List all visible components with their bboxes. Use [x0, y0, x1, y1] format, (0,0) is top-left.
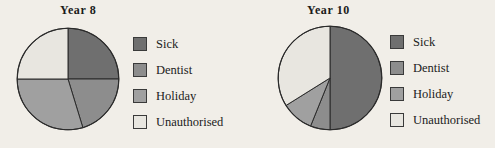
chart-title-year-10: Year 10: [307, 3, 350, 18]
pie-chart-year-8: [16, 27, 120, 131]
legend-label-dentist: Dentist: [413, 62, 449, 75]
legend-item-holiday[interactable]: Holiday: [390, 81, 480, 107]
legend-item-unauthorised[interactable]: Unauthorised: [390, 107, 480, 133]
legend-swatch-holiday: [390, 87, 404, 101]
pie-slice-sick: [68, 28, 119, 79]
pie-chart-year-10: [277, 25, 383, 131]
legend-item-holiday[interactable]: Holiday: [133, 83, 223, 109]
pie-svg-year-10: [277, 25, 383, 131]
figure-canvas: Year 8 Sick Dentist Holiday Unauthorised…: [0, 0, 495, 148]
legend-year-8: Sick Dentist Holiday Unauthorised: [133, 31, 223, 135]
legend-item-dentist[interactable]: Dentist: [133, 57, 223, 83]
pie-slice-unauthorised: [17, 28, 68, 79]
legend-item-dentist[interactable]: Dentist: [390, 55, 480, 81]
legend-swatch-dentist: [390, 61, 404, 75]
legend-item-sick[interactable]: Sick: [133, 31, 223, 57]
legend-year-10: Sick Dentist Holiday Unauthorised: [390, 29, 480, 133]
legend-label-holiday: Holiday: [413, 88, 453, 101]
legend-label-sick: Sick: [413, 36, 435, 49]
legend-label-sick: Sick: [156, 38, 178, 51]
legend-item-sick[interactable]: Sick: [390, 29, 480, 55]
legend-label-dentist: Dentist: [156, 64, 192, 77]
legend-swatch-unauthorised: [390, 113, 404, 127]
pie-slice-sick: [330, 26, 382, 130]
legend-label-holiday: Holiday: [156, 90, 196, 103]
legend-swatch-holiday: [133, 89, 147, 103]
pie-svg-year-8: [16, 27, 120, 131]
legend-item-unauthorised[interactable]: Unauthorised: [133, 109, 223, 135]
legend-label-unauthorised: Unauthorised: [156, 116, 223, 129]
legend-label-unauthorised: Unauthorised: [413, 114, 480, 127]
legend-swatch-dentist: [133, 63, 147, 77]
legend-swatch-unauthorised: [133, 115, 147, 129]
chart-title-year-8: Year 8: [60, 3, 96, 18]
legend-swatch-sick: [133, 37, 147, 51]
legend-swatch-sick: [390, 35, 404, 49]
